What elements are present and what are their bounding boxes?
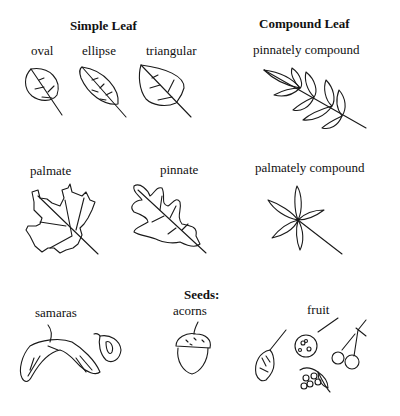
samara-seed-icon — [20, 325, 121, 382]
pinnate-leaf-icon — [132, 185, 206, 253]
palmate-leaf-icon — [26, 184, 98, 254]
triangular-leaf-icon — [139, 65, 191, 117]
acorn-seed-icon — [176, 322, 210, 374]
leaf-illustrations — [0, 0, 400, 416]
palmately-compound-leaf-icon — [268, 186, 342, 254]
ellipse-leaf-icon — [80, 67, 126, 117]
pinnately-compound-leaf-icon — [264, 68, 366, 129]
fruit-icon — [256, 318, 366, 392]
oval-leaf-icon — [26, 69, 63, 115]
